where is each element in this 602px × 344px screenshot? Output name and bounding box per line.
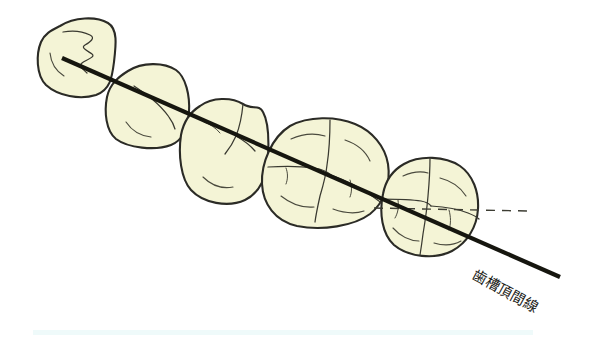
bottom-strip bbox=[33, 330, 533, 335]
tooth-row-figure: 歯槽頂間線 bbox=[0, 0, 602, 344]
tooth-first-premolar bbox=[38, 18, 116, 97]
crest-line bbox=[62, 58, 560, 277]
tooth-outline-1 bbox=[38, 18, 116, 97]
